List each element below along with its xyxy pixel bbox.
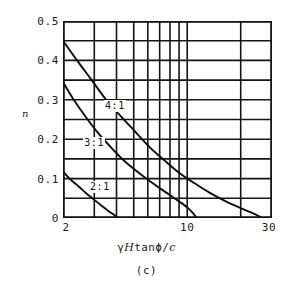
y-tick-0p5: 0.5	[13, 16, 59, 27]
y-tick-0p4: 0.4	[13, 55, 59, 66]
curve-label-4-1: 4:1	[104, 100, 126, 112]
x-tick-30: 30	[262, 222, 276, 234]
y-tick-0p1: 0.1	[13, 174, 59, 185]
y-axis-tick-labels: 0.50.40.30.20.10	[8, 21, 59, 218]
x-axis-title-c: c	[169, 241, 176, 254]
x-axis-tick-labels: 21030	[63, 222, 272, 238]
x-tick-2: 2	[62, 222, 69, 234]
x-axis-title-h: H	[124, 241, 134, 254]
figure-caption: (c)	[0, 264, 293, 277]
y-axis-title: n	[22, 108, 28, 119]
figure-container: 0.50.40.30.20.10 4:13:12:1 21030 n γHtan…	[0, 0, 293, 289]
x-axis-title-tan: tan	[134, 241, 155, 254]
curve-label-2-1: 2:1	[89, 181, 111, 193]
y-tick-0p2: 0.2	[13, 134, 59, 145]
plot-area: 4:13:12:1	[63, 21, 272, 218]
y-tick-0p3: 0.3	[13, 95, 59, 106]
x-tick-10: 10	[180, 222, 194, 234]
y-tick-0: 0	[13, 213, 59, 224]
x-axis-title: γHtanϕ/c	[0, 241, 293, 254]
curve-label-3-1: 3:1	[83, 137, 105, 149]
